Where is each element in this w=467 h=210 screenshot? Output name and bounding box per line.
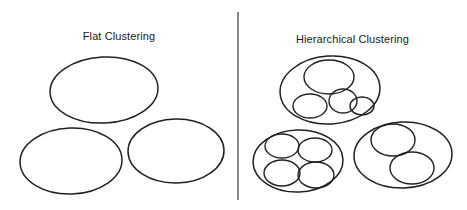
hierarchical-clustering-title: Hierarchical Clustering [238,33,467,45]
hier-2-child-1-outline [265,134,299,158]
clustering-diagram: Flat Clustering Hierarchical Clustering [0,0,467,210]
hier-1-child-4-outline [350,97,374,115]
hierarchical-clustering-group [252,53,453,194]
flat-cluster-1-outline [48,54,159,126]
hier-2-child-2-outline [298,138,332,162]
hier-1-child-2-outline [293,94,327,118]
flat-clustering-group [19,54,225,196]
flat-cluster-3-outline [127,118,224,184]
flat-cluster-2-outline [19,126,123,196]
flat-clustering-title: Flat Clustering [0,30,238,42]
hier-2-child-4-outline [298,162,334,188]
hier-2-child-3-outline [264,160,300,186]
hier-3-child-2-outline [390,152,434,184]
hier-cluster-1-outline [278,53,382,128]
hier-3-child-1-outline [371,124,415,156]
